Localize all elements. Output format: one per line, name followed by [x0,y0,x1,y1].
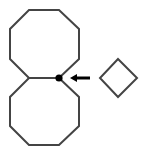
diamond-shape [100,59,137,97]
marked-vertex-dot [55,74,62,81]
bottom-octagon [10,78,79,145]
diagram-canvas [0,0,146,157]
arrow-head-icon [70,74,77,82]
top-octagon [10,10,79,78]
